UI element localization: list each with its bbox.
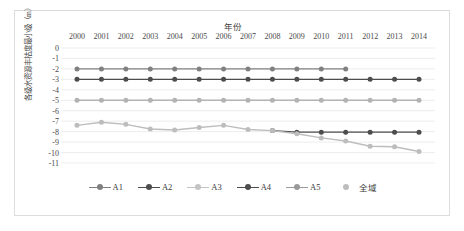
legend-label: A2 <box>162 182 172 192</box>
y-tick-label: -5 <box>52 96 59 105</box>
data-point <box>368 77 373 82</box>
y-tick-label: 0 <box>55 44 59 53</box>
legend-marker-icon <box>138 183 160 192</box>
legend-item-全域[interactable]: 全域 <box>335 181 377 193</box>
legend-item-A5[interactable]: A5 <box>286 182 320 192</box>
legend-item-A4[interactable]: A4 <box>237 182 271 192</box>
data-point <box>123 98 128 103</box>
data-point <box>221 77 226 82</box>
legend-marker-icon <box>89 183 111 192</box>
series-canvas <box>61 11 435 181</box>
data-point <box>123 77 128 82</box>
data-point <box>368 144 373 149</box>
data-point <box>75 66 80 71</box>
data-point <box>99 120 104 125</box>
data-point <box>246 98 251 103</box>
legend-label: A1 <box>113 182 123 192</box>
data-point <box>221 123 226 128</box>
y-axis-tick-labels: 0-1-2-3-4-5-6-7-8-9-10-11 <box>33 11 59 143</box>
data-point <box>417 149 422 154</box>
y-axis-title: 各级水资源丰枯度最小级（m） <box>22 0 33 117</box>
data-point <box>294 77 299 82</box>
data-point <box>417 77 422 82</box>
data-point <box>246 66 251 71</box>
y-tick-label: -11 <box>49 159 59 168</box>
data-point <box>343 98 348 103</box>
data-point <box>75 77 80 82</box>
data-point <box>123 122 128 127</box>
legend-label: 全域 <box>359 181 377 193</box>
data-point <box>270 128 275 133</box>
y-tick-label: -6 <box>52 106 59 115</box>
data-point <box>75 123 80 128</box>
data-point <box>294 98 299 103</box>
legend-item-A1[interactable]: A1 <box>89 182 123 192</box>
series-全域 <box>75 120 422 154</box>
y-tick-label: -9 <box>52 138 59 147</box>
data-point <box>197 125 202 130</box>
data-point <box>270 98 275 103</box>
data-point <box>197 77 202 82</box>
legend-label: A3 <box>211 182 221 192</box>
series-A1 <box>75 66 349 71</box>
data-point <box>343 66 348 71</box>
data-point <box>343 130 348 135</box>
data-point <box>392 77 397 82</box>
data-point <box>148 77 153 82</box>
data-point <box>172 66 177 71</box>
data-point <box>392 98 397 103</box>
data-point <box>172 128 177 133</box>
legend-marker-icon <box>286 183 308 192</box>
data-point <box>75 98 80 103</box>
data-point <box>392 144 397 149</box>
data-point <box>319 135 324 140</box>
data-point <box>172 77 177 82</box>
data-point <box>294 131 299 136</box>
legend-label: A4 <box>261 182 271 192</box>
legend-item-A2[interactable]: A2 <box>138 182 172 192</box>
data-point <box>319 130 324 135</box>
y-tick-label: -8 <box>52 127 59 136</box>
legend-marker-icon <box>237 183 259 192</box>
data-point <box>417 130 422 135</box>
data-point <box>197 66 202 71</box>
data-point <box>368 130 373 135</box>
data-point <box>319 66 324 71</box>
data-point <box>319 77 324 82</box>
y-tick-label: -3 <box>52 75 59 84</box>
data-point <box>99 77 104 82</box>
y-tick-label: -1 <box>52 54 59 63</box>
data-point <box>368 98 373 103</box>
data-point <box>148 127 153 132</box>
data-point <box>172 98 177 103</box>
series-line <box>77 122 419 151</box>
chart-legend: A1A2A3A4A5全域 <box>15 181 451 193</box>
y-tick-label: -7 <box>52 117 59 126</box>
plot-area <box>61 11 435 143</box>
data-point <box>270 77 275 82</box>
data-point <box>148 98 153 103</box>
data-point <box>123 66 128 71</box>
data-point <box>221 98 226 103</box>
legend-label: A5 <box>310 182 320 192</box>
data-point <box>221 66 226 71</box>
data-point <box>270 66 275 71</box>
data-point <box>148 66 153 71</box>
chart-plot-frame: 年份 2000200120022003200420052006200720082… <box>14 10 450 216</box>
data-point <box>99 98 104 103</box>
chart-figure: 年份 2000200120022003200420052006200720082… <box>0 0 464 231</box>
data-point <box>99 66 104 71</box>
data-point <box>246 77 251 82</box>
y-tick-label: -2 <box>52 64 59 73</box>
data-point <box>246 127 251 132</box>
data-point <box>392 130 397 135</box>
series-A2 <box>75 77 422 82</box>
data-point <box>417 98 422 103</box>
y-tick-label: -10 <box>48 148 59 157</box>
legend-item-A3[interactable]: A3 <box>187 182 221 192</box>
legend-marker-icon <box>187 183 209 192</box>
y-tick-label: -4 <box>52 85 59 94</box>
data-point <box>343 77 348 82</box>
series-A3 <box>75 98 422 103</box>
data-point <box>343 139 348 144</box>
